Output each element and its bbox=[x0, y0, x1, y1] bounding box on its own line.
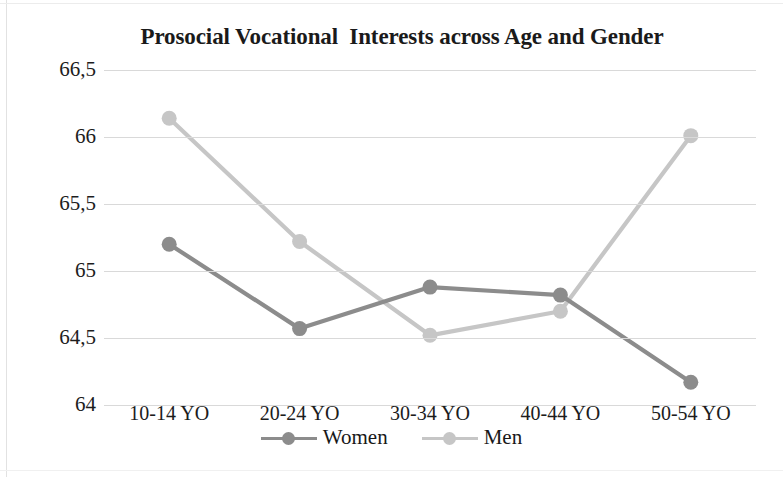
y-axis-tick-label: 65,5 bbox=[10, 193, 96, 214]
y-axis-tick-label: 66 bbox=[10, 126, 96, 147]
data-point-marker bbox=[292, 234, 307, 249]
y-axis-tick-label: 65 bbox=[10, 260, 96, 281]
gridline bbox=[104, 338, 756, 339]
data-point-marker bbox=[162, 111, 177, 126]
data-point-marker bbox=[162, 237, 177, 252]
y-axis-tick-label: 66,5 bbox=[10, 59, 96, 80]
series-line bbox=[169, 118, 691, 335]
legend-swatch-icon bbox=[261, 431, 317, 445]
gridline bbox=[104, 271, 756, 272]
data-point-marker bbox=[292, 321, 307, 336]
data-point-marker bbox=[683, 375, 698, 390]
plot-area bbox=[104, 60, 756, 405]
x-axis-tick-label: 30-34 YO bbox=[360, 402, 500, 424]
data-point-marker bbox=[423, 280, 438, 295]
data-point-marker bbox=[423, 328, 438, 343]
gridline bbox=[104, 70, 756, 71]
legend-item[interactable]: Men bbox=[422, 427, 523, 448]
data-point-marker bbox=[553, 288, 568, 303]
x-axis-tick-label: 20-24 YO bbox=[230, 402, 370, 424]
y-axis-tick-label: 64 bbox=[10, 394, 96, 415]
legend-label: Men bbox=[484, 427, 523, 448]
x-axis-tick-label: 50-54 YO bbox=[621, 402, 761, 424]
y-axis: 66,56665,56564,564 bbox=[0, 60, 96, 405]
chart-legend: WomenMen bbox=[0, 427, 783, 448]
series-line bbox=[169, 244, 691, 382]
x-axis-tick-label: 10-14 YO bbox=[99, 402, 239, 424]
data-point-marker bbox=[553, 304, 568, 319]
chart-title: Prosocial Vocational Interests across Ag… bbox=[128, 22, 676, 52]
page-edge-top-divider bbox=[0, 3, 783, 4]
legend-label: Women bbox=[323, 427, 388, 448]
legend-swatch-icon bbox=[422, 431, 478, 445]
gridline bbox=[104, 137, 756, 138]
chart-figure: Prosocial Vocational Interests across Ag… bbox=[0, 0, 783, 477]
data-point-marker bbox=[683, 128, 698, 143]
y-axis-tick-label: 64,5 bbox=[10, 327, 96, 348]
page-edge-bottom-divider bbox=[0, 470, 783, 471]
legend-item[interactable]: Women bbox=[261, 427, 388, 448]
series-layer bbox=[104, 60, 756, 405]
x-axis-tick-label: 40-44 YO bbox=[490, 402, 630, 424]
gridline bbox=[104, 204, 756, 205]
